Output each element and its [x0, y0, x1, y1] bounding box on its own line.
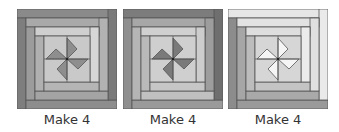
log-inner-bottom	[150, 82, 205, 91]
log-mid-bottom	[141, 91, 214, 100]
log-mid-top	[132, 18, 214, 27]
log-mid-bottom	[35, 91, 108, 100]
log-mid-left	[132, 27, 141, 100]
log-inner-top	[35, 27, 99, 36]
log-outer-right	[319, 9, 328, 100]
log-mid-left	[26, 27, 35, 100]
log-inner-right	[301, 27, 310, 82]
log-inner-right	[196, 27, 205, 82]
log-inner-bottom	[44, 82, 99, 91]
log-outer-left	[17, 18, 26, 109]
log-outer-bottom	[132, 100, 223, 109]
log-outer-top	[17, 9, 117, 18]
log-outer-left	[228, 18, 237, 109]
log-mid-right	[99, 18, 108, 91]
log-outer-top	[228, 9, 328, 18]
log-mid-right	[310, 18, 319, 91]
log-inner-top	[246, 27, 310, 36]
log-inner-top	[141, 27, 205, 36]
quilt-block-1	[17, 9, 117, 109]
log-mid-bottom	[246, 91, 319, 100]
log-mid-left	[237, 27, 246, 100]
log-inner-bottom	[255, 82, 310, 91]
caption-block-1: Make 4	[12, 112, 122, 127]
log-outer-bottom	[26, 100, 117, 109]
caption-block-3: Make 4	[223, 112, 333, 127]
quilt-block-3	[228, 9, 328, 109]
caption-block-2: Make 4	[118, 112, 228, 127]
log-mid-top	[237, 18, 319, 27]
log-outer-top	[123, 9, 223, 18]
log-inner-right	[90, 27, 99, 82]
log-outer-right	[214, 9, 223, 100]
log-mid-right	[205, 18, 214, 91]
log-mid-top	[26, 18, 108, 27]
log-inner-left	[246, 36, 255, 91]
log-inner-left	[141, 36, 150, 91]
log-outer-bottom	[237, 100, 328, 109]
quilt-block-2	[123, 9, 223, 109]
log-outer-left	[123, 18, 132, 109]
log-inner-left	[35, 36, 44, 91]
log-outer-right	[108, 9, 117, 100]
